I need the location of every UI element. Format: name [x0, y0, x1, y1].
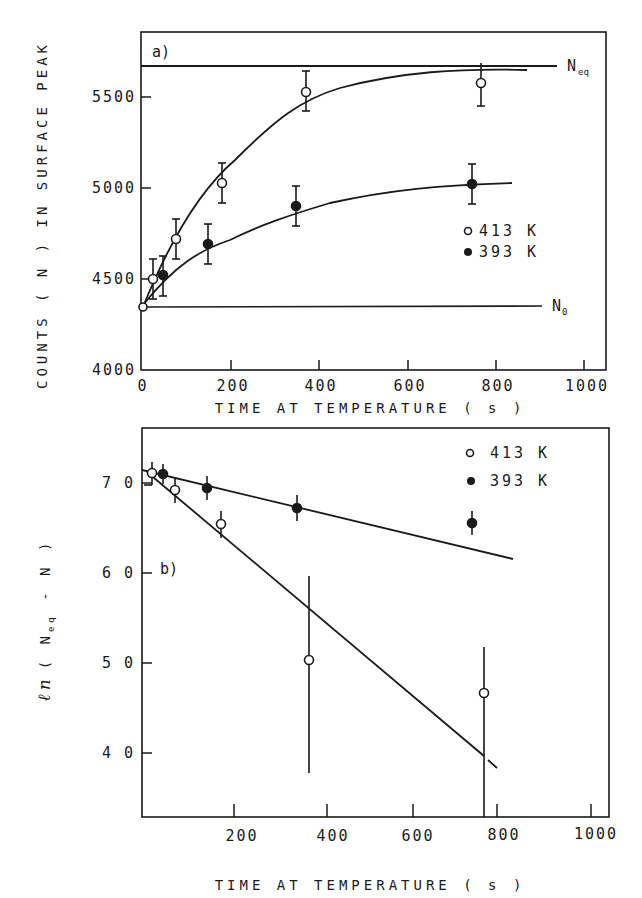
y-tick-4000: 4000 [92, 361, 136, 379]
panel-b-y-ticks: 7 0 6 0 5 0 4 0 [102, 474, 152, 762]
legend-413k: 413 K [479, 222, 539, 240]
svg-text:ℓn( Neq - N ): ℓn( Neq - N ) [34, 539, 56, 702]
figure: a) 4000 4500 5000 5500 0 200 400 600 800… [0, 0, 642, 898]
panel-b-legend: 413 K 393 K [467, 444, 551, 490]
y-tick-4500: 4500 [92, 270, 136, 288]
panel-a-frame [141, 32, 606, 370]
svg-text:200: 200 [216, 377, 249, 395]
y-tick-5000: 5000 [92, 179, 136, 197]
panel-b-label: b) [160, 560, 178, 578]
svg-text:400: 400 [304, 377, 337, 395]
n0-label: N0 [552, 297, 567, 317]
neq-label: Neq [567, 57, 589, 77]
legend-open-circle-icon [465, 228, 472, 235]
panel-a-y-title: COUNTS ( N ) IN SURFACE PEAK [34, 41, 50, 389]
svg-text:800: 800 [487, 826, 520, 844]
panel-b-y-title: ℓn( Neq - N ) [34, 539, 56, 702]
series-393k-panel-b [159, 464, 477, 535]
svg-text:1000: 1000 [565, 377, 609, 395]
svg-text:0: 0 [137, 377, 148, 395]
panel-a: a) 4000 4500 5000 5500 0 200 400 600 800… [34, 32, 609, 416]
panel-a-x-ticks: 0 200 400 600 800 1000 [137, 360, 609, 395]
y-tick-6: 6 0 [102, 564, 135, 582]
panel-a-x-title: TIME AT TEMPERATURE ( s ) [215, 400, 526, 416]
legend-open-circle-icon [467, 450, 474, 457]
y-tick-4: 4 0 [102, 744, 135, 762]
svg-text:800: 800 [481, 377, 514, 395]
legend-filled-circle-icon [467, 477, 475, 485]
panel-a-label: a) [152, 43, 170, 61]
fit-line-413k [147, 472, 484, 756]
svg-text:400: 400 [316, 827, 349, 845]
panel-b-x-title: TIME AT TEMPERATURE ( s ) [215, 877, 526, 893]
y-tick-5500: 5500 [92, 88, 136, 106]
svg-text:600: 600 [401, 827, 434, 845]
panel-a-y-ticks: 4000 4500 5000 5500 [92, 88, 151, 379]
panel-a-legend: 413 K 393 K [464, 222, 539, 261]
svg-text:200: 200 [225, 827, 258, 845]
series-413k-panel-b [144, 462, 489, 817]
y-tick-7: 7 0 [102, 474, 135, 492]
panel-b: b) 7 0 6 0 5 0 4 0 200 400 600 800 1000 … [34, 428, 618, 893]
legend-393k: 393 K [479, 243, 539, 261]
series-393k-panel-a [159, 164, 477, 296]
svg-text:1000: 1000 [574, 825, 618, 843]
y-tick-5: 5 0 [102, 654, 135, 672]
n0-line [141, 306, 542, 307]
legend-filled-circle-icon [464, 248, 472, 256]
panel-b-x-ticks: 200 400 600 800 1000 [225, 804, 618, 845]
svg-text:600: 600 [393, 377, 426, 395]
legend-393k: 393 K [490, 472, 550, 490]
legend-413k: 413 K [490, 444, 550, 462]
